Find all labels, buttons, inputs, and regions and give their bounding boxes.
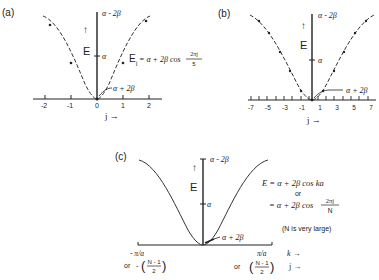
svg-text:2πj: 2πj (190, 51, 198, 57)
j-axis-label: j → (104, 111, 119, 121)
svg-text:(: ( (141, 258, 146, 273)
svg-text:2: 2 (260, 269, 264, 275)
svg-text:N: N (328, 207, 333, 214)
svg-text:-: - (136, 261, 139, 270)
svg-text:E = α + 2β cos ka: E = α + 2β cos ka (261, 178, 324, 188)
huckel-energy-diagram: (a) -2 -1 0 1 2 α - 2β α (0, 0, 379, 280)
svg-text:-1: -1 (299, 104, 305, 111)
svg-text:2: 2 (152, 268, 156, 274)
j-tick-labels: -2 -1 0 1 2 (41, 102, 151, 109)
svg-text:-3: -3 (282, 104, 288, 111)
svg-text:π/a: π/a (257, 249, 267, 258)
panel-b-label: (b) (218, 8, 230, 19)
k-axis-label: k → (287, 249, 301, 258)
alpha-label: α (207, 200, 212, 209)
top-level-label: α - 2β (102, 9, 121, 18)
svg-text:5: 5 (192, 61, 196, 67)
svg-text:or: or (234, 263, 241, 270)
left-axis-labels: - π/a or - ( N - 1 2 ) (124, 249, 166, 274)
svg-text:(: ( (249, 259, 254, 274)
top-level-label: α - 2β (210, 155, 229, 164)
bottom-level-marker (205, 239, 214, 243)
alpha-label: α (318, 56, 323, 65)
svg-text:j: j (135, 60, 137, 66)
j-axis-label: j → (306, 115, 321, 125)
svg-text:E: E (129, 53, 136, 64)
svg-text:= α + 2β cos: = α + 2β cos (139, 55, 181, 64)
svg-text:1: 1 (318, 104, 322, 111)
alpha-label: α (102, 52, 107, 61)
up-arrow-icon: ↑ (301, 20, 306, 31)
svg-text:-5: -5 (265, 104, 271, 111)
svg-text:- π/a: - π/a (130, 249, 144, 258)
svg-text:3: 3 (335, 104, 339, 111)
panel-a: (a) -2 -1 0 1 2 α - 2β α (2, 7, 202, 121)
svg-text:N - 1: N - 1 (255, 260, 269, 266)
svg-text:7: 7 (369, 104, 373, 111)
j-tick-labels: -7 -5 -3 -1 1 3 5 7 (248, 104, 373, 111)
right-axis-labels: π/a or ( N - 1 2 ) k → j → (234, 249, 301, 275)
panel-a-label: (a) (2, 7, 14, 18)
panel-c-equations: E = α + 2β cos ka or = α + 2β cos 2πj N … (261, 178, 339, 233)
energy-axis-label: E (190, 181, 197, 193)
j-axis-label: j → (288, 262, 301, 271)
bottom-level-label: α + 2β (113, 84, 135, 93)
energy-axis-label: E (300, 39, 307, 51)
svg-text:or: or (295, 190, 302, 197)
svg-text:N - 1: N - 1 (147, 259, 161, 265)
svg-text:-7: -7 (248, 104, 254, 111)
svg-text:2πj: 2πj (326, 197, 335, 204)
svg-text:-2: -2 (41, 102, 47, 109)
up-arrow-icon: ↑ (192, 162, 197, 173)
bottom-leader-line (214, 237, 220, 239)
panel-c-label: (c) (115, 151, 127, 162)
n-large-note: (N is very large) (282, 225, 331, 233)
svg-text:1: 1 (121, 102, 125, 109)
svg-text:= α + 2β cos: = α + 2β cos (269, 200, 314, 210)
up-arrow-icon: ↑ (83, 24, 88, 35)
svg-text:5: 5 (352, 104, 356, 111)
bottom-level-label: α + 2β (346, 86, 368, 95)
bottom-leader-line (99, 88, 112, 96)
panel-c: (c) α - 2β α E ↑ α + 2β E = α + 2β cos k… (115, 151, 339, 275)
svg-text:or: or (124, 262, 131, 269)
svg-text:-1: -1 (67, 102, 73, 109)
top-level-label: α - 2β (318, 11, 337, 20)
bottom-level-label: α + 2β (222, 233, 244, 242)
energy-axis-label: E (83, 45, 90, 57)
svg-text:2: 2 (147, 102, 151, 109)
svg-text:): ) (270, 259, 274, 274)
panel-a-equation: E j = α + 2β cos 2πj 5 (129, 51, 202, 67)
svg-text:0: 0 (95, 102, 99, 109)
panel-b: (b) -7 -5 -3 -1 1 3 5 7 (218, 8, 376, 125)
svg-text:): ) (162, 258, 166, 273)
